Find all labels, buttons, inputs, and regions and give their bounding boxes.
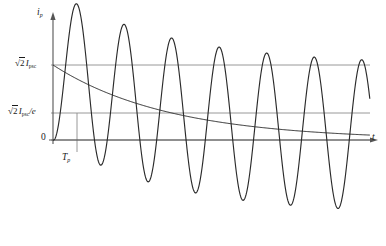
period-subscript: p	[67, 157, 70, 163]
current-subscript-upper: psc	[29, 63, 36, 69]
x-axis-label: t	[372, 133, 375, 143]
figure-asymmetrical-short-circuit-current: ip √2 Ipsc √2 Ipsc/e 0 Tp t	[0, 0, 386, 246]
radical-operand: 2	[19, 57, 25, 68]
y-tick-label-upper: √2 Ipsc	[15, 59, 36, 69]
x-axis-symbol: t	[372, 132, 375, 142]
plot-canvas	[0, 0, 386, 246]
radical-operand-lower: 2	[12, 105, 18, 116]
y-axis-subscript: p	[40, 12, 43, 18]
y-axis-arrow	[50, 12, 55, 20]
radical-sign: √2	[15, 58, 25, 68]
current-divisor-lower: /e	[29, 106, 36, 116]
period-marker-label: Tp	[62, 153, 70, 164]
y-tick-label-lower: √2 Ipsc/e	[8, 107, 36, 117]
radical-sign-lower: √2	[8, 106, 18, 116]
y-axis-label: ip	[37, 8, 43, 19]
current-waveform-curve	[53, 4, 370, 209]
origin-label: 0	[41, 133, 46, 143]
